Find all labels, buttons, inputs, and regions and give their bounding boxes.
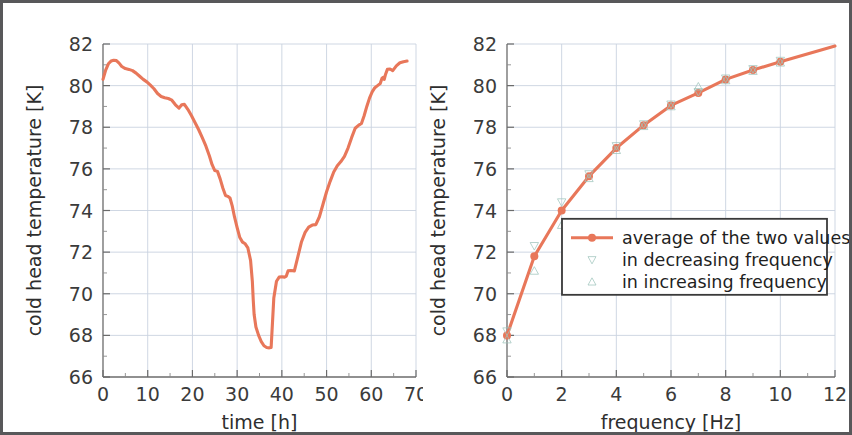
x-tick-label: 20 xyxy=(180,383,204,405)
data-point xyxy=(530,252,538,260)
x-axis-ticks xyxy=(103,370,416,377)
y-tick-label: 72 xyxy=(69,241,93,263)
gridlines xyxy=(103,44,416,377)
data-curve-cold-head-temperature xyxy=(103,60,407,348)
x-axis-title: time [h] xyxy=(222,411,298,432)
y-tick-label: 74 xyxy=(69,200,93,222)
series-markers-up-triangle xyxy=(503,59,785,343)
frequency-chart: 024681012666870727476788082frequency [Hz… xyxy=(423,3,849,432)
legend-marker xyxy=(588,234,596,242)
x-tick-label: 6 xyxy=(665,383,677,405)
x-tick-label: 30 xyxy=(225,383,249,405)
x-tick-label: 10 xyxy=(768,383,792,405)
y-tick-label: 70 xyxy=(473,283,497,305)
y-tick-label: 80 xyxy=(69,75,93,97)
chart-panel-frequency: 024681012666870727476788082frequency [Hz… xyxy=(423,3,849,432)
y-tick-label: 70 xyxy=(69,283,93,305)
gridlines xyxy=(507,44,835,377)
y-tick-label: 66 xyxy=(69,366,93,388)
series-points xyxy=(503,58,784,340)
chart-panel-time: 010203040506070666870727476788082time [h… xyxy=(3,3,423,432)
x-axis-title: frequency [Hz] xyxy=(601,411,741,432)
x-tick-label: 4 xyxy=(610,383,622,405)
x-tick-label: 2 xyxy=(556,383,568,405)
y-tick-label: 72 xyxy=(473,241,497,263)
x-tick-label: 50 xyxy=(314,383,338,405)
x-tick-label: 40 xyxy=(270,383,294,405)
chart-legend: average of the two valuesin decreasing f… xyxy=(562,219,849,295)
y-tick-label: 76 xyxy=(69,158,93,180)
y-tick-label: 80 xyxy=(473,75,497,97)
y-tick-label: 78 xyxy=(69,116,93,138)
data-point xyxy=(558,207,566,215)
figure-container: 010203040506070666870727476788082time [h… xyxy=(0,0,852,435)
x-tick-label: 70 xyxy=(404,383,423,405)
y-tick-label: 78 xyxy=(473,116,497,138)
y-tick-label: 68 xyxy=(473,324,497,346)
y-tick-label: 66 xyxy=(473,366,497,388)
y-tick-label: 82 xyxy=(473,33,497,55)
x-tick-label: 12 xyxy=(823,383,847,405)
y-axis-title: cold head temperature [K] xyxy=(427,85,449,337)
x-tick-label: 0 xyxy=(501,383,513,405)
y-axis-ticks xyxy=(103,44,110,377)
x-axis-ticks xyxy=(507,370,835,377)
x-tick-label: 8 xyxy=(720,383,732,405)
y-tick-label: 74 xyxy=(473,200,497,222)
x-tick-label: 60 xyxy=(359,383,383,405)
y-axis-title: cold head temperature [K] xyxy=(23,85,45,337)
x-tick-label: 10 xyxy=(136,383,160,405)
x-tick-label: 0 xyxy=(97,383,109,405)
y-tick-label: 76 xyxy=(473,158,497,180)
legend-label: average of the two values xyxy=(622,228,849,248)
y-tick-label: 68 xyxy=(69,324,93,346)
time-series-chart: 010203040506070666870727476788082time [h… xyxy=(3,3,423,432)
legend-label: in increasing frequency xyxy=(622,272,827,292)
y-tick-label: 82 xyxy=(69,33,93,55)
legend-label: in decreasing frequency xyxy=(622,250,833,270)
